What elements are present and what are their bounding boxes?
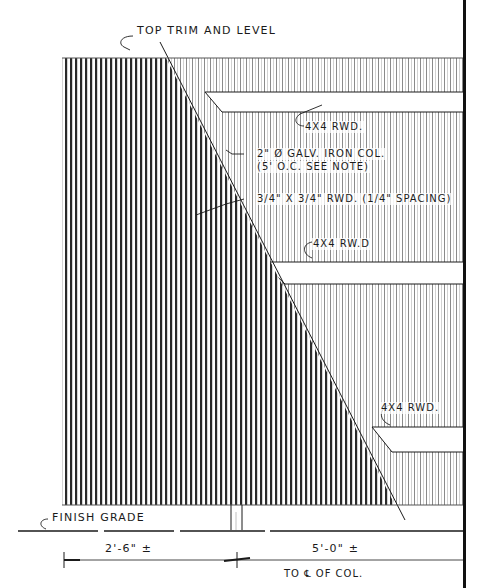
elevation-drawing	[0, 0, 479, 588]
column	[231, 505, 242, 530]
rail-middle	[262, 262, 464, 284]
dimension-right-note: TO ℄ OF COL.	[284, 568, 363, 580]
note-rail-bottom: 4X4 RWD.	[380, 402, 440, 414]
note-rail-middle: 4X4 RW.D	[312, 238, 371, 250]
rail-top	[205, 92, 464, 112]
note-column-line1: 2" Ø GALV. IRON COL.	[256, 148, 386, 160]
note-top-trim: TOP TRIM AND LEVEL	[137, 25, 276, 37]
note-slats: 3/4" X 3/4" RWD. (1/4" SPACING)	[256, 193, 453, 205]
sheet-border-right	[463, 0, 466, 588]
note-rail-top: 4X4 RWD.	[304, 121, 364, 133]
note-finish-grade: FINISH GRADE	[52, 512, 145, 524]
dimension-right: 5'-0" ±	[312, 543, 359, 555]
dimension-left: 2'-6" ±	[105, 543, 152, 555]
note-column-line2: (5' O.C. SEE NOTE)	[256, 161, 370, 173]
